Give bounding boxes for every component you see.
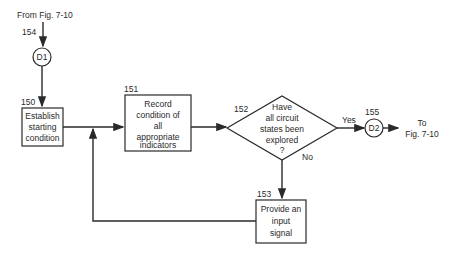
step-153-line-2: input	[272, 216, 291, 226]
entry-label: From Fig. 7-10	[17, 10, 73, 20]
step-151-line-2: condition of	[136, 110, 180, 120]
step-151-line-5: indicators	[140, 140, 176, 150]
step-153-line-1: Provide an	[261, 204, 302, 214]
decision-152-line-5: ?	[280, 145, 285, 155]
step-150-line-1: Establish	[25, 111, 60, 121]
ref-155: 155	[365, 107, 379, 117]
ref-154: 154	[22, 27, 36, 37]
no-label: No	[302, 152, 313, 162]
step-151-line-3: all	[154, 121, 163, 131]
flowchart: From Fig. 7-10 154 D1 150 Establish star…	[0, 0, 449, 259]
decision-152-line-4: explored	[266, 135, 299, 145]
connector-d2-label: D2	[369, 123, 380, 133]
ref-151: 151	[124, 84, 138, 94]
step-150-line-2: starting	[29, 122, 57, 132]
ref-153: 153	[257, 189, 271, 199]
step-151-line-1: Record	[144, 99, 172, 109]
connector-d1-label: D1	[37, 52, 48, 62]
yes-label: Yes	[342, 115, 356, 125]
ref-150: 150	[21, 97, 35, 107]
exit-label-line-1: To	[418, 118, 427, 128]
ref-152: 152	[234, 104, 248, 114]
decision-152-line-2: all circuit	[265, 113, 299, 123]
step-153-line-3: signal	[270, 228, 292, 238]
decision-152-line-1: Have	[272, 102, 292, 112]
exit-label-line-2: Fig. 7-10	[405, 129, 439, 139]
step-150-line-3: condition	[25, 133, 59, 143]
decision-152-line-3: states been	[260, 124, 304, 134]
